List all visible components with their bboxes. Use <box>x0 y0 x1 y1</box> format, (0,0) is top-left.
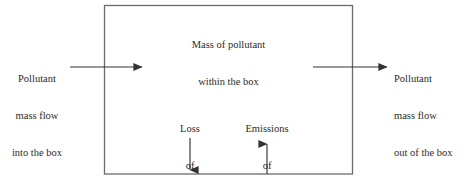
box-content-label: Mass of pollutant within the box <box>104 14 353 113</box>
loss-label-line2: of <box>157 160 223 172</box>
outflow-label-line3: out of the box <box>394 147 468 159</box>
loss-label: Loss of pollutant <box>157 98 223 187</box>
loss-label-line1: Loss <box>157 123 223 135</box>
inflow-label-line3: into the box <box>4 147 70 159</box>
inflow-label-line1: Pollutant <box>4 73 70 85</box>
box-content-label-line1: Mass of pollutant <box>104 39 353 51</box>
outflow-label: Pollutant mass flow out of the box <box>394 48 468 184</box>
outflow-label-line1: Pollutant <box>394 73 468 85</box>
emissions-label-line1: Emissions <box>232 123 302 135</box>
box-model-diagram: Mass of pollutant within the box Polluta… <box>0 0 468 187</box>
outflow-label-line2: mass flow <box>394 110 468 122</box>
inflow-label: Pollutant mass flow into the box <box>4 48 70 184</box>
emissions-label: Emissions of pollutant <box>232 98 302 187</box>
inflow-label-line2: mass flow <box>4 110 70 122</box>
emissions-label-line2: of <box>232 160 302 172</box>
box-content-label-line2: within the box <box>104 76 353 88</box>
